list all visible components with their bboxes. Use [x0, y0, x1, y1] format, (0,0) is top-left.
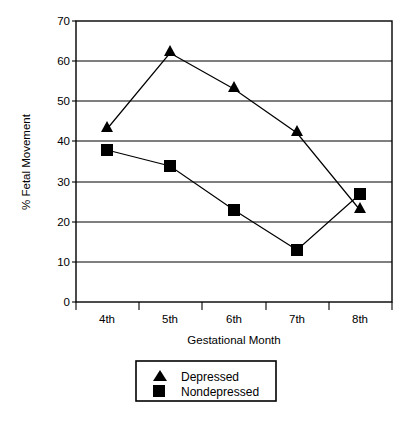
y-tick-label: 0: [64, 296, 70, 308]
y-tick-label: 50: [57, 95, 70, 107]
x-tick-label-7th: 7th: [289, 313, 305, 325]
x-tick-label-4th: 4th: [99, 313, 115, 325]
y-tick-label: 10: [57, 256, 70, 268]
series-nondepressed: [101, 144, 366, 256]
y-tick-label: 70: [57, 15, 70, 27]
y-axis-title: % Fetal Movement: [20, 113, 32, 210]
legend-label-depressed: Depressed: [181, 370, 239, 384]
x-tick-label-8th: 8th: [352, 313, 368, 325]
nondepressed-marker: [228, 204, 240, 216]
y-tick-label: 60: [57, 55, 70, 67]
plot-area-border: [76, 21, 392, 302]
x-axis-tick-marks: [76, 302, 392, 310]
y-axis-tick-labels: 70 60 50 40 30 20 10 0: [57, 15, 70, 308]
x-tick-label-5th: 5th: [162, 313, 178, 325]
depressed-marker: [101, 121, 113, 132]
x-tick-label-6th: 6th: [226, 313, 242, 325]
y-tick-label: 40: [57, 135, 70, 147]
nondepressed-marker: [291, 244, 303, 256]
legend-label-nondepressed: Nondepressed: [181, 385, 259, 399]
chart-legend: Depressed Nondepressed: [136, 361, 276, 401]
y-tick-label: 30: [57, 176, 70, 188]
x-axis-tick-labels: 4th 5th 6th 7th 8th: [99, 313, 368, 325]
chart-canvas: 70 60 50 40 30 20 10 0: [0, 0, 409, 425]
depressed-line: [107, 53, 360, 210]
depressed-marker: [354, 202, 366, 213]
series-depressed: [101, 45, 366, 213]
nondepressed-marker: [164, 160, 176, 172]
nondepressed-marker: [101, 144, 113, 156]
nondepressed-marker: [354, 188, 366, 200]
fetal-movement-line-chart: 70 60 50 40 30 20 10 0: [0, 0, 409, 425]
x-axis-title: Gestational Month: [187, 334, 280, 346]
depressed-marker: [164, 45, 176, 56]
nondepressed-line: [107, 150, 360, 250]
square-marker-icon: [153, 385, 165, 397]
y-tick-label: 20: [57, 216, 70, 228]
